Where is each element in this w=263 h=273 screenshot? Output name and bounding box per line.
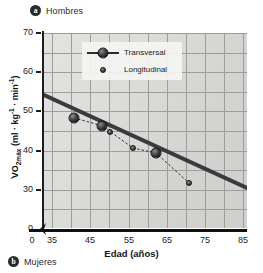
data-point-transversal — [97, 120, 108, 131]
y-axis-title: ̇VO2máx (ml · kg-1 · min-1) — [8, 32, 22, 222]
x-axis-label-35: 35 — [40, 236, 64, 245]
plot-area: Transversal Longitudinal — [43, 33, 247, 228]
y-axis-tick — [36, 189, 41, 191]
x-axis-label-75: 75 — [193, 236, 217, 245]
x-axis-label-85: 85 — [231, 236, 255, 245]
panel-label-b: b Mujeres — [8, 256, 57, 267]
y-axis-title-main: VO — [10, 165, 20, 178]
legend-item-longitudinal: Longitudinal — [86, 61, 182, 78]
y-axis-tick — [36, 71, 41, 73]
y-axis-tick — [36, 110, 41, 112]
y-axis-tick — [36, 150, 41, 152]
data-point-longitudinal — [186, 180, 192, 186]
panel-badge-b: b — [8, 256, 19, 267]
y-axis-title-sup2: -1 — [8, 79, 15, 85]
y-axis-title-sub: 2máx — [15, 149, 22, 166]
y-axis-title-mid: · min — [10, 84, 20, 108]
data-point-transversal — [151, 148, 162, 159]
legend-key-longitudinal — [86, 63, 120, 77]
legend-key-transversal — [86, 46, 120, 60]
data-point-transversal — [68, 112, 79, 123]
y-axis-line — [42, 31, 44, 230]
y-axis-title-sup1: -1 — [8, 108, 15, 114]
legend-label-longitudinal: Longitudinal — [124, 65, 167, 74]
x-axis-label-45: 45 — [78, 236, 102, 245]
y-axis-title-units: (ml · kg — [10, 114, 20, 149]
transversal-trend-line — [43, 95, 247, 189]
panel-title-b: Mujeres — [24, 257, 57, 267]
x-axis-label-55: 55 — [117, 236, 141, 245]
x-axis-label-65: 65 — [155, 236, 179, 245]
chart-figure: Transversal Longitudinal 70 60 50 40 30 … — [0, 0, 263, 273]
legend-item-transversal: Transversal — [86, 44, 182, 61]
y-axis-tick — [36, 32, 41, 34]
chart-legend: Transversal Longitudinal — [82, 42, 182, 80]
x-axis-line — [29, 229, 247, 232]
y-axis-title-close: ) — [10, 76, 20, 79]
data-point-longitudinal — [107, 129, 113, 135]
legend-label-transversal: Transversal — [124, 48, 166, 57]
legend-marker-small — [100, 67, 106, 73]
data-point-longitudinal — [130, 145, 136, 151]
legend-marker-large — [98, 47, 109, 58]
